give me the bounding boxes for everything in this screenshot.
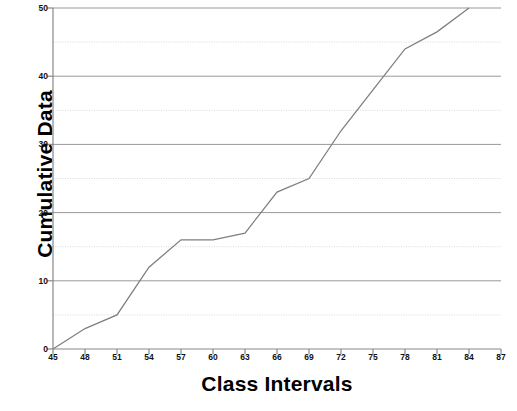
x-tick-label: 51 xyxy=(105,352,129,362)
x-tick-label: 57 xyxy=(169,352,193,362)
x-tick-label: 84 xyxy=(457,352,481,362)
minor-gridlines xyxy=(53,42,501,315)
y-tick-label: 30 xyxy=(26,139,48,149)
x-tick-label: 75 xyxy=(361,352,385,362)
x-tick-label: 63 xyxy=(233,352,257,362)
x-tick-label: 60 xyxy=(201,352,225,362)
y-tick-label: 20 xyxy=(26,208,48,218)
x-tick-label: 54 xyxy=(137,352,161,362)
cumulative-frequency-chart: Cumulative Data xyxy=(0,0,517,411)
x-tick-label: 78 xyxy=(393,352,417,362)
major-gridlines xyxy=(53,8,501,281)
x-axis-title: Class Intervals xyxy=(53,372,501,396)
x-tick-label: 81 xyxy=(425,352,449,362)
y-tick-label: 0 xyxy=(26,344,48,354)
y-axis-ticks xyxy=(47,8,53,349)
y-tick-label: 40 xyxy=(26,71,48,81)
y-tick-label: 50 xyxy=(26,3,48,13)
x-tick-label: 66 xyxy=(265,352,289,362)
x-tick-label: 69 xyxy=(297,352,321,362)
y-tick-label: 10 xyxy=(26,276,48,286)
x-tick-label: 48 xyxy=(73,352,97,362)
plot-area xyxy=(0,0,517,411)
x-tick-label: 72 xyxy=(329,352,353,362)
x-tick-label: 87 xyxy=(489,352,513,362)
